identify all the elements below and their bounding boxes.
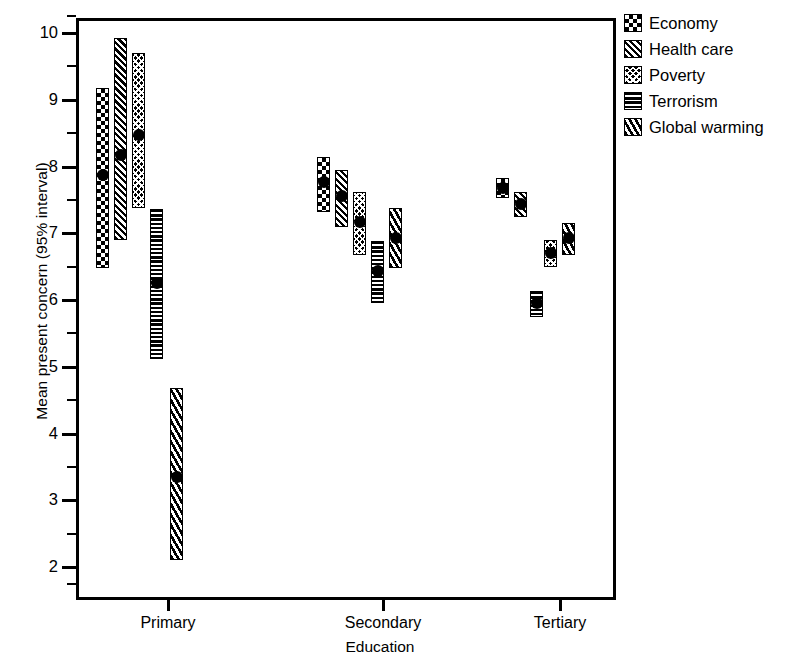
mean-marker xyxy=(354,216,366,228)
legend-item: Health care xyxy=(624,36,794,62)
y-tick-major xyxy=(62,166,76,169)
mean-marker xyxy=(318,176,330,188)
y-tick-minor xyxy=(67,132,76,134)
y-tick-label: 4 xyxy=(18,425,58,442)
y-tick-major xyxy=(62,366,76,369)
y-tick-major xyxy=(62,433,76,436)
y-tick-label: 5 xyxy=(18,358,58,375)
legend-label: Poverty xyxy=(649,66,705,85)
legend-swatch-icon xyxy=(624,66,642,84)
legend-label: Terrorism xyxy=(649,92,718,111)
chart-figure: Mean present concern (95% interval) 1098… xyxy=(0,0,795,666)
y-tick-minor xyxy=(67,266,76,268)
y-tick-label: 8 xyxy=(18,158,58,175)
y-tick-minor xyxy=(67,15,76,17)
ci-bar xyxy=(114,38,127,240)
mean-marker xyxy=(372,265,384,277)
legend-item: Poverty xyxy=(624,62,794,88)
y-tick-major xyxy=(62,32,76,35)
legend-swatch-icon xyxy=(624,40,642,58)
mean-marker xyxy=(515,198,527,210)
y-tick-major xyxy=(62,99,76,102)
y-tick-major xyxy=(62,232,76,235)
legend-swatch-icon xyxy=(624,92,642,110)
mean-marker xyxy=(115,149,127,161)
mean-marker xyxy=(497,182,509,194)
x-tick-label: Tertiary xyxy=(490,614,630,632)
legend-label: Economy xyxy=(649,14,718,33)
y-tick-minor xyxy=(67,332,76,334)
legend-item: Terrorism xyxy=(624,88,794,114)
y-tick-minor xyxy=(67,399,76,401)
y-tick-label: 3 xyxy=(18,491,58,508)
legend-label: Global warming xyxy=(649,118,764,137)
y-tick-label: 6 xyxy=(18,291,58,308)
mean-marker xyxy=(97,169,109,181)
y-tick-label: 2 xyxy=(18,558,58,575)
y-tick-minor xyxy=(67,65,76,67)
x-tick xyxy=(167,600,170,611)
legend-item: Global warming xyxy=(624,114,794,140)
x-axis-title: Education xyxy=(270,638,490,656)
legend: EconomyHealth carePovertyTerrorismGlobal… xyxy=(624,10,794,140)
mean-marker xyxy=(390,232,402,244)
y-tick-minor xyxy=(67,533,76,535)
mean-marker xyxy=(545,247,557,259)
x-tick-label: Primary xyxy=(98,614,238,632)
y-tick-label: 10 xyxy=(18,24,58,41)
y-tick-minor xyxy=(67,583,76,585)
x-tick xyxy=(382,600,385,611)
mean-marker xyxy=(563,232,575,244)
mean-marker xyxy=(531,297,543,309)
mean-marker xyxy=(151,277,163,289)
y-tick-major xyxy=(62,566,76,569)
y-tick-minor xyxy=(67,199,76,201)
y-tick-label: 7 xyxy=(18,224,58,241)
legend-swatch-icon xyxy=(624,118,642,136)
y-tick-major xyxy=(62,499,76,502)
y-tick-label: 9 xyxy=(18,91,58,108)
mean-marker xyxy=(336,190,348,202)
x-tick xyxy=(559,600,562,611)
mean-marker xyxy=(171,471,183,483)
legend-item: Economy xyxy=(624,10,794,36)
y-tick-major xyxy=(62,299,76,302)
legend-swatch-icon xyxy=(624,14,642,32)
mean-marker xyxy=(133,129,145,141)
legend-label: Health care xyxy=(649,40,733,59)
y-tick-minor xyxy=(67,466,76,468)
x-tick-label: Secondary xyxy=(313,614,453,632)
